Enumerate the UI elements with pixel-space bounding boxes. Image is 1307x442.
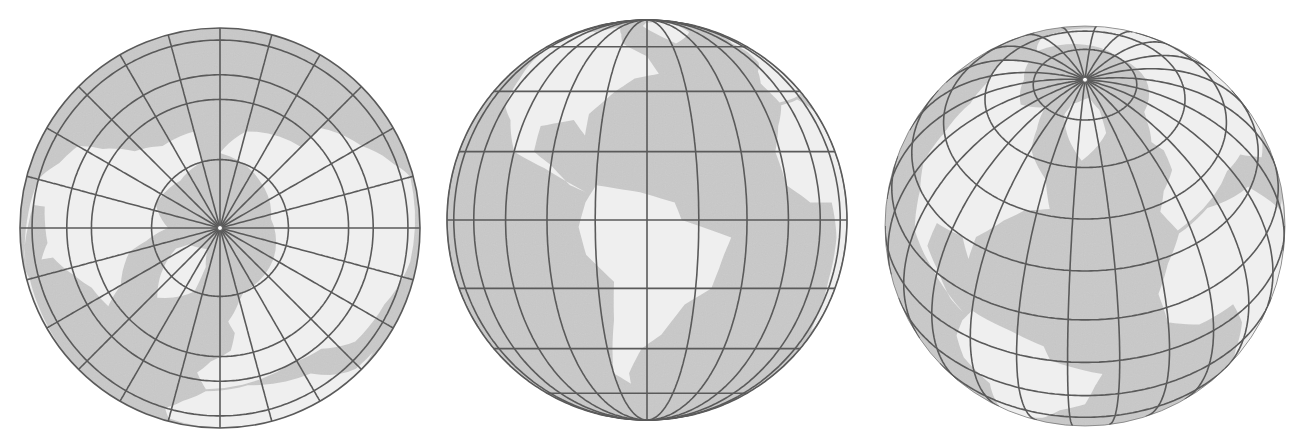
globe-oblique-aspect [885, 26, 1285, 426]
north-pole-marker [1083, 77, 1088, 82]
globes-figure [0, 0, 1307, 442]
globe-polar-aspect [20, 28, 420, 428]
north-pole-marker [218, 226, 223, 231]
globe-equatorial-aspect [447, 20, 847, 420]
